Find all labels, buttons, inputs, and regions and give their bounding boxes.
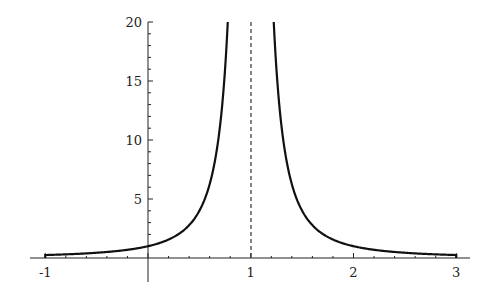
x-axis: -1123	[30, 253, 470, 280]
x-tick-label: 3	[452, 265, 460, 280]
x-tick-label: 2	[349, 265, 357, 280]
x-tick-label: 1	[247, 265, 255, 280]
y-tick-label: 15	[125, 74, 142, 89]
y-tick-label: 5	[134, 192, 142, 207]
curve-right-branch	[274, 22, 457, 258]
plot-area: -1123 5101520	[0, 0, 489, 297]
y-tick-label: 10	[125, 133, 142, 148]
y-tick-label: 20	[125, 15, 142, 30]
x-tick-label: -1	[39, 265, 52, 280]
y-axis: 5101520	[125, 15, 153, 282]
